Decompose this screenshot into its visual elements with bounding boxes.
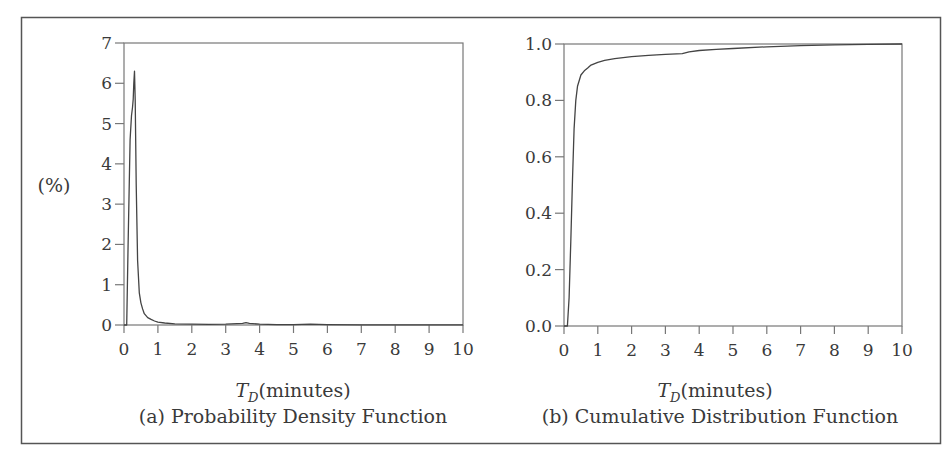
x-tick-label: 2 [626, 340, 637, 360]
y-tick-label: 3 [101, 194, 112, 214]
pdf-x-unit: (minutes) [259, 379, 351, 401]
cdf-caption: (b) Cumulative Distribution Function [542, 405, 899, 427]
x-tick-label: 4 [694, 340, 705, 360]
cdf-y-axis: 0.00.20.40.60.81.0 [525, 34, 564, 336]
pdf-y-axis-label: (%) [38, 174, 71, 196]
x-tick-label: 10 [891, 340, 913, 360]
pdf-plot-area [124, 43, 463, 325]
cdf-x-sub: D [669, 390, 681, 405]
cdf-plot-area [564, 44, 902, 326]
x-tick-label: 9 [424, 339, 435, 359]
x-tick-label: 1 [152, 339, 163, 359]
pdf-x-sub: D [247, 390, 259, 405]
x-tick-label: 5 [728, 340, 739, 360]
cdf-x-axis-label: TD(minutes) [657, 379, 772, 405]
x-tick-label: 3 [660, 340, 671, 360]
y-tick-label: 0.0 [525, 316, 552, 336]
y-tick-label: 6 [101, 73, 112, 93]
x-tick-label: 10 [452, 339, 474, 359]
y-tick-label: 1.0 [525, 34, 552, 54]
x-tick-label: 0 [559, 340, 570, 360]
x-tick-label: 4 [254, 339, 265, 359]
x-tick-label: 2 [186, 339, 197, 359]
y-tick-label: 0.4 [525, 203, 552, 223]
x-tick-label: 8 [390, 339, 401, 359]
y-tick-label: 0.8 [525, 90, 552, 110]
y-tick-label: 2 [101, 234, 112, 254]
y-tick-label: 0.6 [525, 147, 552, 167]
x-tick-label: 6 [322, 339, 333, 359]
panel-cdf: 0.00.20.40.60.81.0 012345678910 TD(minut… [525, 34, 913, 427]
x-tick-label: 5 [288, 339, 299, 359]
pdf-x-axis-label: TD(minutes) [235, 379, 350, 405]
x-tick-label: 7 [356, 339, 367, 359]
pdf-curve [124, 71, 463, 325]
y-tick-label: 1 [101, 275, 112, 295]
y-tick-label: 5 [101, 114, 112, 134]
pdf-y-axis: 01234567 [101, 33, 124, 335]
x-tick-label: 1 [592, 340, 603, 360]
figure-canvas: 01234567 012345678910 (%) TD(minutes) (a… [0, 0, 952, 462]
pdf-caption: (a) Probability Density Function [139, 405, 447, 427]
cdf-x-unit: (minutes) [681, 379, 773, 401]
y-tick-label: 4 [101, 154, 112, 174]
cdf-x-axis: 012345678910 [559, 326, 913, 360]
x-tick-label: 3 [220, 339, 231, 359]
pdf-x-axis: 012345678910 [119, 325, 474, 359]
panel-pdf: 01234567 012345678910 (%) TD(minutes) (a… [38, 33, 474, 427]
x-tick-label: 7 [795, 340, 806, 360]
figure: 01234567 012345678910 (%) TD(minutes) (a… [0, 0, 952, 462]
x-tick-label: 9 [863, 340, 874, 360]
y-tick-label: 0 [101, 315, 112, 335]
x-tick-label: 8 [829, 340, 840, 360]
figure-frame [22, 18, 941, 444]
cdf-curve [564, 44, 902, 326]
y-tick-label: 0.2 [525, 260, 552, 280]
x-tick-label: 6 [761, 340, 772, 360]
x-tick-label: 0 [119, 339, 130, 359]
y-tick-label: 7 [101, 33, 112, 53]
